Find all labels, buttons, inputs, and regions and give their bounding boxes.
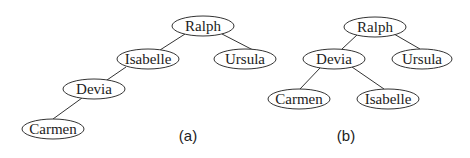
caption-a: (a) bbox=[179, 127, 197, 144]
edge-ralph-ursula bbox=[222, 34, 253, 50]
node-label: Devia bbox=[76, 81, 112, 97]
node-label: Ursula bbox=[402, 51, 442, 67]
node-label: Carmen bbox=[29, 121, 77, 137]
tree-a: Ralph Isabelle Ursula Devia Carmen (a) bbox=[22, 16, 276, 144]
edge-ralph-devia bbox=[342, 34, 358, 49]
node-isabelle: Isabelle bbox=[357, 89, 419, 109]
node-label: Carmen bbox=[275, 91, 323, 107]
node-label: Isabelle bbox=[365, 91, 412, 107]
node-label: Devia bbox=[316, 51, 352, 67]
tree-diagrams: Ralph Isabelle Ursula Devia Carmen (a) bbox=[0, 0, 470, 158]
edge-devia-carmen bbox=[300, 68, 320, 89]
binary-tree-figure: Ralph Isabelle Ursula Devia Carmen (a) bbox=[0, 0, 470, 158]
edge-devia-carmen bbox=[53, 98, 82, 119]
node-label: Ralph bbox=[185, 18, 221, 34]
node-carmen: Carmen bbox=[22, 119, 84, 139]
node-label: Ralph bbox=[357, 19, 393, 35]
edge-ralph-isabelle bbox=[160, 34, 185, 50]
node-ralph: Ralph bbox=[172, 16, 234, 36]
edge-ralph-ursula bbox=[394, 34, 420, 49]
node-ralph: Ralph bbox=[344, 17, 406, 37]
edge-devia-isabelle bbox=[352, 67, 384, 89]
node-label: Ursula bbox=[225, 51, 265, 67]
node-devia: Devia bbox=[63, 79, 125, 99]
edge-isabelle-devia bbox=[107, 67, 126, 80]
caption-b: (b) bbox=[337, 127, 355, 144]
tree-b: Ralph Devia Ursula Carmen Isabelle (b) bbox=[268, 17, 452, 144]
node-label: Isabelle bbox=[125, 51, 172, 67]
node-isabelle: Isabelle bbox=[117, 49, 179, 69]
node-carmen: Carmen bbox=[268, 89, 330, 109]
node-ursula: Ursula bbox=[214, 49, 276, 69]
node-devia: Devia bbox=[303, 49, 365, 69]
node-ursula: Ursula bbox=[392, 49, 452, 69]
